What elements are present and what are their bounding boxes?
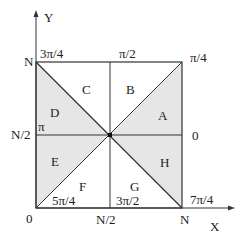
region-label-h: H xyxy=(160,155,169,170)
label-n-half-left: N/2 xyxy=(11,127,31,142)
region-label-b: B xyxy=(126,82,135,97)
angle-pi-4: π/4 xyxy=(190,50,207,65)
angle-7pi-4: 7π/4 xyxy=(190,192,214,207)
y-axis-arrow-icon xyxy=(34,10,39,17)
region-label-f: F xyxy=(79,179,86,194)
region-label-g: G xyxy=(130,179,139,194)
octant-diagram: Y X N N/2 0 N/2 N 3π/4 π/2 π/4 π 0 5π/4 … xyxy=(0,0,251,241)
region-label-e: E xyxy=(51,154,59,169)
label-origin: 0 xyxy=(26,211,33,226)
angle-pi: π xyxy=(38,119,45,134)
angle-3pi-4: 3π/4 xyxy=(40,46,64,61)
region-label-a: A xyxy=(158,108,168,123)
x-axis-label: X xyxy=(210,219,220,234)
y-axis-label: Y xyxy=(44,10,54,25)
label-n-bottom-right: N xyxy=(180,212,190,227)
region-label-c: C xyxy=(82,82,91,97)
angle-zero: 0 xyxy=(192,128,199,143)
angle-pi-2: π/2 xyxy=(119,46,136,61)
label-n-half-bottom: N/2 xyxy=(96,212,116,227)
angle-5pi-4: 5π/4 xyxy=(52,193,76,208)
center-point xyxy=(108,133,112,137)
x-axis-arrow-icon xyxy=(228,206,235,211)
region-label-d: D xyxy=(50,105,59,120)
angle-3pi-2: 3π/2 xyxy=(116,193,139,208)
label-n-top-left: N xyxy=(24,54,34,69)
